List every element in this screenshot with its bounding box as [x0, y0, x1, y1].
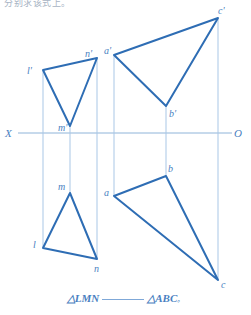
vertex-label-n-prime: n' — [85, 48, 93, 59]
vertex-label-l: l — [33, 239, 36, 250]
caption-triangle-lmn: △LMN — [67, 292, 99, 304]
vertex-label-b: b — [168, 163, 173, 174]
caption-terminator: 。 — [177, 296, 184, 304]
caption-triangle-abc: △ABC — [147, 292, 177, 304]
vertex-label-c-prime: c' — [218, 5, 225, 16]
vertex-label-n: n — [94, 263, 99, 274]
vertex-label-c: c — [221, 279, 226, 290]
triangle-lmn-front — [43, 58, 97, 126]
axis-label-o: O — [234, 127, 242, 139]
vertex-label-m: m — [58, 181, 65, 192]
vertex-label-l-prime: l' — [27, 65, 33, 76]
triangle-abc-top — [114, 176, 218, 280]
axis-label-x: X — [4, 127, 13, 139]
caption-answer-blank[interactable] — [102, 299, 144, 300]
projection-diagram: X O l' m' n' l m n a' b' c' a b c — [0, 0, 251, 315]
vertex-label-a-prime: a' — [104, 45, 112, 56]
vertex-label-m-prime: m' — [58, 122, 68, 133]
projector-lines — [43, 18, 218, 280]
triangle-lmn-top — [43, 193, 97, 259]
vertex-label-b-prime: b' — [169, 108, 177, 119]
triangle-abc-front — [114, 18, 218, 106]
vertex-label-a: a — [104, 187, 109, 198]
figure-caption: △LMN△ABC。 — [0, 292, 251, 305]
